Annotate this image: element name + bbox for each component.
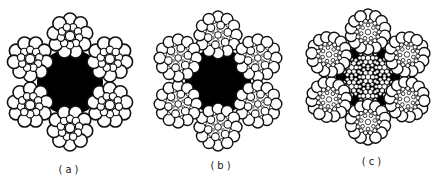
- strand: [194, 103, 242, 151]
- rope-panel-b: [154, 11, 282, 151]
- strand: [47, 13, 93, 58]
- strand: [7, 82, 53, 127]
- strand: [7, 37, 53, 82]
- strand: [345, 9, 390, 55]
- strand: [194, 11, 242, 59]
- panel-label-c: (c): [362, 156, 384, 167]
- rope-cross-sections: [0, 0, 439, 181]
- panel-label-b: (b): [210, 160, 233, 171]
- wire-rope-figure: (a) (b) (c): [0, 0, 439, 181]
- strand: [47, 106, 93, 151]
- rope-panel-c: [306, 9, 430, 145]
- strand: [345, 99, 390, 145]
- strand: [87, 37, 132, 82]
- strand: [87, 82, 132, 127]
- panel-label-a: (a): [59, 164, 82, 175]
- rope-panel-a: [7, 13, 132, 151]
